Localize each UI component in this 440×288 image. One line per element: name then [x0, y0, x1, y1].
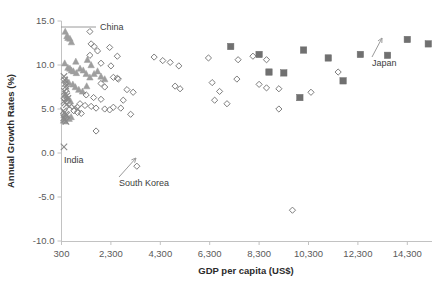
data-point-diamond [167, 59, 173, 65]
x-tick-label: 10,300 [294, 248, 323, 259]
data-point-square [297, 94, 303, 100]
data-point-diamond [110, 104, 116, 110]
chart-canvas: -10.0-5.00.05.010.015.0 3002,3004,3006,3… [0, 0, 440, 288]
y-tick-label: 5.0 [41, 103, 54, 114]
x-tick-label: 14,300 [393, 248, 422, 259]
data-point-triangle [84, 56, 90, 62]
annotation-arrow-japan [372, 38, 382, 57]
data-point-diamond [256, 81, 262, 87]
data-point-diamond [124, 87, 130, 93]
data-point-square [340, 78, 346, 84]
data-point-diamond [209, 80, 215, 86]
y-tick-label: 0.0 [41, 147, 54, 158]
data-point-diamond [128, 111, 134, 117]
data-point-diamond [250, 53, 256, 59]
data-point-diamond [235, 57, 241, 63]
data-point-diamond [134, 163, 140, 169]
data-point-diamond [335, 69, 341, 75]
y-tick-label: 15.0 [36, 15, 55, 26]
data-point-triangle [73, 58, 79, 64]
data-point-diamond [130, 89, 136, 95]
y-axis-ticks [58, 21, 62, 241]
data-point-diamond [91, 94, 97, 100]
data-point-square [425, 41, 431, 47]
y-tick-label: 10.0 [36, 59, 55, 70]
data-point-diamond [114, 53, 120, 59]
x-tick-label: 2,300 [99, 248, 123, 259]
annotation-arrow-south-korea [119, 158, 136, 177]
series-filled-squares [227, 36, 431, 100]
data-point-diamond [118, 105, 124, 111]
x-tick-label: 12,300 [343, 248, 372, 259]
data-point-diamond [205, 55, 211, 61]
y-tick-label: -10.0 [33, 235, 55, 246]
data-point-square [256, 51, 262, 57]
data-point-diamond [176, 63, 182, 69]
series-open-diamonds [71, 28, 341, 213]
data-point-diamond [212, 97, 218, 103]
data-point-triangle [94, 68, 100, 74]
x-tick-label: 6,300 [198, 248, 222, 259]
data-point-diamond [263, 57, 269, 63]
x-axis-tick-labels: 3002,3004,3006,3008,30010,30012,30014,30… [54, 248, 422, 259]
data-point-square [281, 70, 287, 76]
annotation-label-india: India [64, 155, 84, 165]
data-point-triangle [61, 60, 67, 66]
data-point-diamond [234, 76, 240, 82]
data-point-square [266, 69, 272, 75]
x-tick-label: 300 [54, 248, 70, 259]
data-point-square [325, 55, 331, 61]
data-point-square [300, 47, 306, 53]
data-points-layer [60, 28, 431, 213]
annotation-label-south-korea: South Korea [119, 178, 169, 188]
data-point-diamond [276, 106, 282, 112]
data-point-diamond [263, 85, 269, 91]
annotation-label-japan: Japan [372, 58, 397, 68]
data-point-diamond [308, 89, 314, 95]
plot-axes [62, 21, 433, 242]
data-point-triangle [83, 83, 89, 89]
y-axis-title: Annual Growth Rates (%) [5, 74, 16, 188]
data-point-diamond [93, 128, 99, 134]
data-point-square [357, 51, 363, 57]
data-point-diamond [120, 97, 126, 103]
data-point-diamond [87, 28, 93, 34]
x-tick-label: 8,300 [247, 248, 271, 259]
data-point-diamond [224, 101, 230, 107]
data-point-diamond [98, 96, 104, 102]
data-point-diamond [98, 60, 104, 66]
data-point-diamond [276, 86, 282, 92]
y-axis-tick-labels: -10.0-5.00.05.010.015.0 [33, 15, 55, 246]
y-tick-label: -5.0 [38, 191, 54, 202]
data-point-square [404, 36, 410, 42]
data-point-diamond [216, 88, 222, 94]
data-point-diamond [108, 63, 114, 69]
data-point-square [227, 43, 233, 49]
data-point-diamond [151, 54, 157, 60]
x-tick-label: 4,300 [148, 248, 172, 259]
x-axis-title: GDP per capita (US$) [198, 265, 293, 276]
data-point-diamond [107, 44, 113, 50]
scatter-chart-figure: -10.0-5.00.05.010.015.0 3002,3004,3006,3… [0, 0, 440, 288]
annotation-label-china: China [100, 22, 124, 32]
data-point-diamond [160, 58, 166, 64]
data-point-diamond [289, 207, 295, 213]
